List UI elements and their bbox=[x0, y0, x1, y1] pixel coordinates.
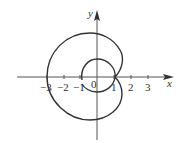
tick-label-2: 2 bbox=[128, 81, 134, 93]
tick-label-1: 1 bbox=[111, 81, 117, 93]
polar-plot: y x −3 −2 −1 0 1 2 3 bbox=[0, 0, 188, 143]
tick-label-neg1: −1 bbox=[73, 81, 85, 93]
origin-label: 0 bbox=[91, 78, 97, 90]
y-axis-label: y bbox=[87, 7, 93, 19]
tick-label-neg3: −3 bbox=[40, 81, 52, 93]
tick-label-neg2: −2 bbox=[57, 81, 69, 93]
x-axis-label: x bbox=[166, 77, 172, 89]
tick-label-3: 3 bbox=[145, 81, 151, 93]
